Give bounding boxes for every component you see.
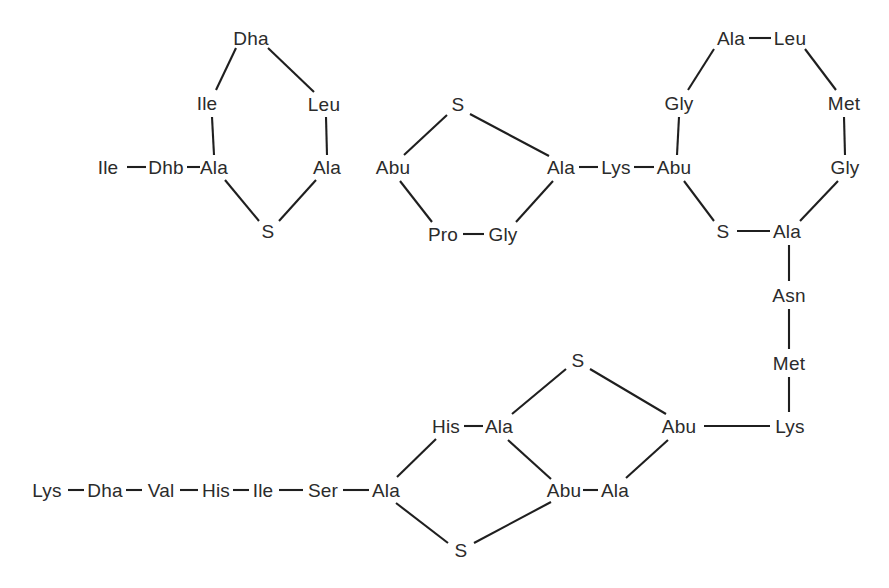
residue-label: Asn bbox=[772, 286, 805, 305]
residue-label: Met bbox=[773, 354, 805, 373]
residue-label: Ala bbox=[485, 417, 513, 436]
bond-line bbox=[404, 115, 447, 155]
bond-line bbox=[626, 440, 668, 478]
residue-label: Ala bbox=[313, 158, 341, 177]
sulfur-atom-label: S bbox=[717, 222, 730, 241]
sulfur-atom-label: S bbox=[455, 541, 468, 560]
residue-label: Dha bbox=[233, 29, 268, 48]
residue-label: Met bbox=[828, 94, 860, 113]
bond-line bbox=[844, 117, 845, 155]
residue-label: Abu bbox=[657, 158, 691, 177]
bond-line bbox=[688, 49, 714, 90]
residue-label: Ala bbox=[547, 158, 575, 177]
residue-label: Ile bbox=[197, 94, 218, 113]
bond-line bbox=[396, 503, 448, 543]
residue-label: Ile bbox=[253, 481, 274, 500]
residue-label: Gly bbox=[830, 158, 859, 177]
bond-line bbox=[805, 49, 836, 90]
residue-label: His bbox=[202, 481, 230, 500]
residue-label: Ala bbox=[601, 481, 629, 500]
residue-label: Lys bbox=[601, 158, 630, 177]
residue-label: Abu bbox=[376, 158, 410, 177]
residue-label: Val bbox=[148, 481, 175, 500]
bond-line bbox=[279, 180, 316, 221]
bond-lines-layer bbox=[0, 0, 889, 588]
bond-line bbox=[268, 48, 314, 92]
bond-line bbox=[474, 502, 551, 543]
bond-line bbox=[397, 439, 436, 477]
residue-label: Leu bbox=[774, 29, 806, 48]
bond-line bbox=[470, 114, 549, 156]
residue-label: Abu bbox=[547, 481, 581, 500]
bond-line bbox=[400, 181, 432, 222]
residue-label: Ala bbox=[200, 158, 228, 177]
residue-label: Leu bbox=[308, 95, 340, 114]
residue-label: Gly bbox=[488, 225, 517, 244]
residue-label: His bbox=[432, 417, 460, 436]
residue-label: Abu bbox=[662, 417, 696, 436]
residue-label: Dha bbox=[87, 481, 122, 500]
bond-line bbox=[216, 48, 236, 90]
residue-label: Ala bbox=[372, 481, 400, 500]
residue-label: Ser bbox=[308, 481, 338, 500]
bond-line bbox=[590, 369, 666, 414]
bond-line bbox=[512, 369, 566, 414]
residue-label: Gly bbox=[664, 94, 693, 113]
residue-label: Dhb bbox=[148, 158, 183, 177]
residue-label: Ala bbox=[717, 29, 745, 48]
residue-label: Lys bbox=[32, 481, 61, 500]
bond-line bbox=[225, 180, 259, 221]
bond-line bbox=[326, 117, 327, 155]
structure-diagram-canvas: IleDhbAlaIleDhaLeuAlaSAbuSAlaProGlyLysAb… bbox=[0, 0, 889, 588]
sulfur-atom-label: S bbox=[452, 95, 465, 114]
bond-line bbox=[684, 181, 714, 221]
bond-line bbox=[212, 117, 214, 155]
sulfur-atom-label: S bbox=[572, 351, 585, 370]
bond-line bbox=[516, 181, 553, 222]
residue-label: Ala bbox=[773, 222, 801, 241]
sulfur-atom-label: S bbox=[262, 222, 275, 241]
residue-label: Pro bbox=[428, 225, 458, 244]
bond-line bbox=[677, 117, 679, 155]
residue-label: Ile bbox=[98, 158, 119, 177]
bond-line bbox=[800, 181, 838, 221]
bond-line bbox=[508, 440, 551, 479]
residue-label: Lys bbox=[775, 417, 804, 436]
